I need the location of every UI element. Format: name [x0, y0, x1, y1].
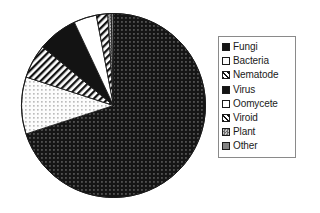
- legend-label-other: Other: [233, 139, 258, 153]
- legend-swatch-bacteria: [222, 57, 230, 65]
- legend-item-other[interactable]: Other: [222, 139, 293, 153]
- legend-swatch-fungi: [222, 43, 230, 51]
- legend-item-bacteria[interactable]: Bacteria: [222, 54, 293, 68]
- legend-item-fungi[interactable]: Fungi: [222, 40, 293, 54]
- legend-swatch-plant: [222, 128, 230, 136]
- legend-label-viroid: Viroid: [233, 111, 258, 125]
- legend-label-virus: Virus: [233, 83, 255, 97]
- legend-item-oomycete[interactable]: Oomycete: [222, 97, 293, 111]
- legend-label-fungi: Fungi: [233, 40, 258, 54]
- legend-swatch-other: [222, 142, 230, 150]
- legend-label-plant: Plant: [233, 125, 255, 139]
- legend-swatch-oomycete: [222, 100, 230, 108]
- legend-label-nematode: Nematode: [233, 68, 278, 82]
- legend-label-oomycete: Oomycete: [233, 97, 278, 111]
- legend-swatch-virus: [222, 86, 230, 94]
- legend-swatch-viroid: [222, 114, 230, 122]
- legend-swatch-nematode: [222, 71, 230, 79]
- legend-item-viroid[interactable]: Viroid: [222, 111, 293, 125]
- legend-item-plant[interactable]: Plant: [222, 125, 293, 139]
- legend-label-bacteria: Bacteria: [233, 54, 269, 68]
- chart-legend: Fungi Bacteria Nematode Virus Oomycete V…: [218, 36, 296, 158]
- pie-slices: [21, 14, 205, 198]
- legend-item-virus[interactable]: Virus: [222, 83, 293, 97]
- legend-item-nematode[interactable]: Nematode: [222, 68, 293, 82]
